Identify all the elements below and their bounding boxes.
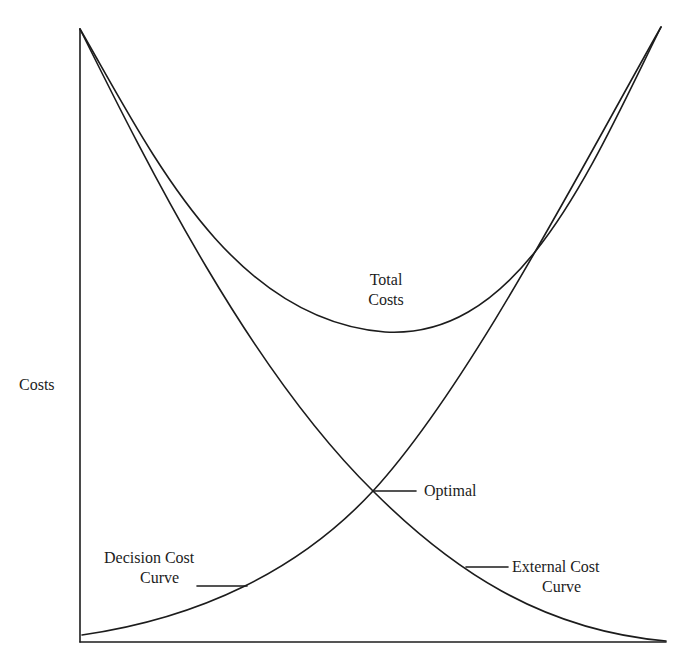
- external-cost-label-line1: External Cost: [512, 557, 632, 577]
- total-costs-label-line1: Total: [351, 270, 421, 290]
- optimal-label: Optimal: [424, 481, 476, 501]
- decision-cost-label-line1: Decision Cost: [104, 548, 228, 568]
- external-cost-label-line2: Curve: [512, 577, 632, 597]
- external-cost-label: External Cost Curve: [512, 557, 632, 597]
- total-costs-label-line2: Costs: [351, 290, 421, 310]
- total-costs-label: Total Costs: [351, 270, 421, 310]
- y-axis-label: Costs: [19, 375, 55, 395]
- decision-cost-label-line2: Curve: [104, 568, 228, 588]
- decision-cost-label: Decision Cost Curve: [104, 548, 228, 588]
